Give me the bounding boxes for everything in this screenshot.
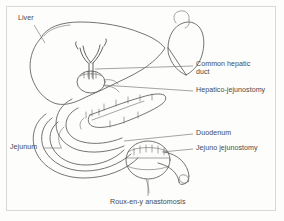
common-hepatic-duct-shape <box>76 39 107 79</box>
label-liver: Liver <box>18 14 34 22</box>
label-jejuno-jej: Jejuno jejunostomy <box>196 144 258 152</box>
hepaticojejunostomy-shape <box>77 71 119 93</box>
label-hep-jej: Hepatico-jejunostomy <box>196 86 265 94</box>
label-duodenum: Duodenum <box>196 129 231 137</box>
leader-duodenum <box>124 134 193 141</box>
jejunum-shape <box>33 114 138 178</box>
anatomy-illustration <box>0 0 284 221</box>
diagram-canvas: Liver Common hepatic duct Hepatico-jejun… <box>0 0 284 221</box>
label-jejunum: Jejunum <box>10 143 37 151</box>
pancreas-shape <box>88 94 165 127</box>
label-common-duct: Common hepatic duct <box>196 60 250 77</box>
label-roux-en-y: Roux-en-y anastomosis <box>110 198 186 206</box>
jejunojejunostomy-shape <box>126 141 170 179</box>
leader-lines <box>34 25 193 196</box>
leader-hep-jej <box>103 85 193 91</box>
